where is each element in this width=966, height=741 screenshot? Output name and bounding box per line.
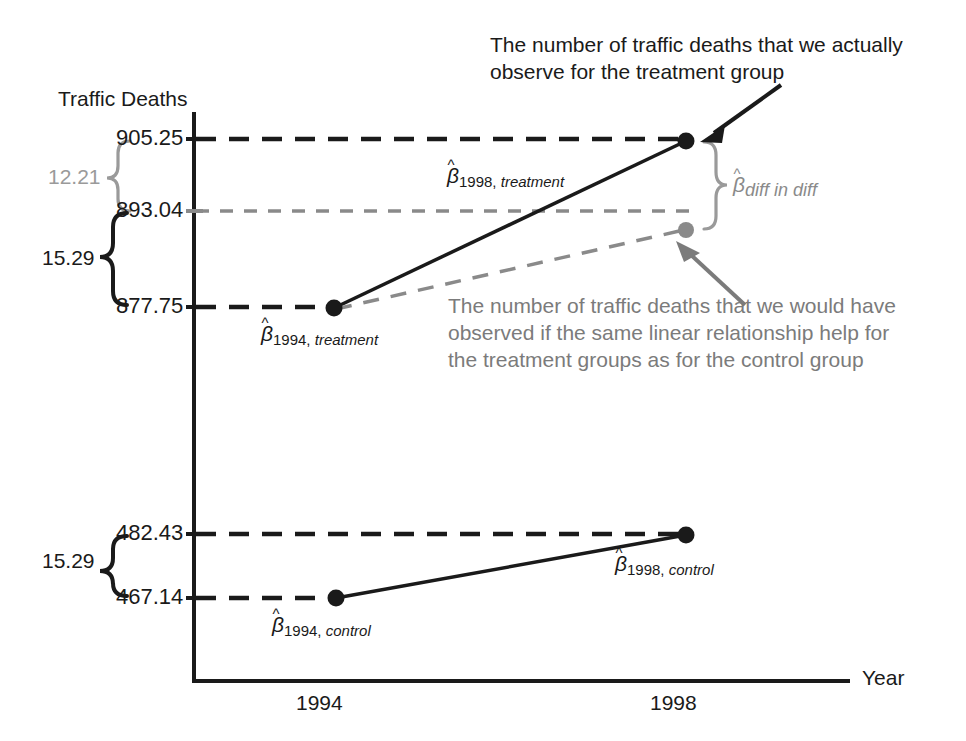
callout-observed: The number of traffic deaths that we act… — [490, 32, 903, 86]
callout-observed-line2: observe for the treatment group — [490, 59, 903, 86]
observed-callout-arrow — [700, 85, 781, 143]
beta-symbol: ^β — [615, 552, 627, 575]
beta-sub-year: 1998, — [627, 561, 665, 578]
y-tick-label-893: 893.04 — [116, 196, 182, 224]
beta-subscript: 1994, treatment — [273, 331, 378, 348]
beta-sub-year: 1994, — [273, 331, 311, 348]
point-1998-control — [678, 527, 695, 544]
beta-sub-year: 1998, — [459, 173, 497, 190]
beta-hat-icon: ^ — [273, 604, 280, 623]
beta-label-1998-treatment: ^β1998, treatment — [447, 163, 564, 191]
beta-sub-group: control — [326, 622, 371, 639]
callout-observed-line1: The number of traffic deaths that we act… — [490, 32, 903, 59]
beta-sub-group: treatment — [315, 331, 378, 348]
x-tick-label-1998: 1998 — [650, 690, 697, 717]
beta-sub-group: control — [669, 561, 714, 578]
beta-label-1994-control: ^β1994, control — [272, 612, 371, 640]
y-axis-title: Traffic Deaths — [58, 86, 188, 113]
beta-sub-group: diff in diff — [745, 180, 817, 200]
beta-label-1994-treatment: ^β1994, treatment — [261, 321, 378, 349]
beta-subscript: diff in diff — [745, 180, 817, 200]
brace-label-15-29-treatment: 15.29 — [42, 245, 95, 272]
point-1998-treatment — [678, 133, 695, 150]
callout-counterfactual-line1: The number of traffic deaths that we wou… — [448, 293, 896, 320]
diff-in-diff-figure: Traffic Deaths Year 905.25 893.04 877.75… — [0, 0, 966, 741]
beta-subscript: 1994, control — [284, 622, 371, 639]
y-tick-label-482: 482.43 — [116, 519, 182, 547]
beta-subscript: 1998, treatment — [459, 173, 564, 190]
brace-label-12-21: 12.21 — [48, 164, 101, 191]
beta-hat-icon: ^ — [734, 164, 741, 183]
x-tick-label-1994: 1994 — [296, 690, 343, 717]
point-1998-counterfactual — [678, 222, 694, 238]
beta-hat-icon: ^ — [448, 155, 455, 174]
beta-symbol: ^β — [733, 173, 745, 196]
callout-counterfactual-line3: the treatment groups as for the control … — [448, 347, 896, 374]
beta-subscript: 1998, control — [627, 561, 714, 578]
point-1994-control — [328, 590, 345, 607]
x-axis-title: Year — [862, 665, 904, 692]
beta-hat-icon: ^ — [616, 543, 623, 562]
y-tick-label-905: 905.25 — [116, 124, 182, 152]
beta-label-diff-in-diff: ^βdiff in diff — [733, 172, 817, 202]
beta-label-1998-control: ^β1998, control — [615, 551, 714, 579]
brace-label-15-29-control: 15.29 — [42, 548, 95, 575]
point-1994-treatment — [326, 300, 343, 317]
beta-symbol: ^β — [272, 613, 284, 636]
brace-diff-in-diff-right — [704, 142, 727, 229]
callout-counterfactual-line2: observed if the same linear relationship… — [448, 320, 896, 347]
beta-sub-year: 1994, — [284, 622, 322, 639]
beta-symbol: ^β — [447, 164, 459, 187]
beta-symbol: ^β — [261, 322, 273, 345]
y-tick-label-467: 467.14 — [116, 583, 182, 611]
callout-counterfactual: The number of traffic deaths that we wou… — [448, 293, 896, 374]
beta-hat-icon: ^ — [262, 313, 269, 332]
beta-sub-group: treatment — [501, 173, 564, 190]
y-tick-label-877: 877.75 — [116, 292, 182, 320]
